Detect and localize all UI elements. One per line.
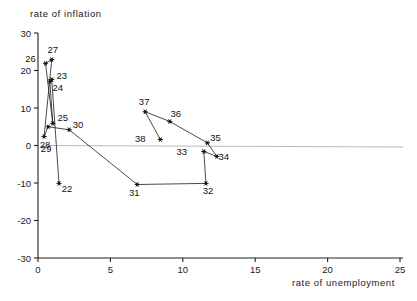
point-label-30: 30 xyxy=(73,119,84,130)
zero-line xyxy=(47,146,403,148)
data-point-markers xyxy=(41,57,219,186)
plot-area: 3020100-10-20-300510152025 2223242526272… xyxy=(0,0,417,301)
x-tick-label: 25 xyxy=(395,264,406,275)
series-polyline xyxy=(44,60,217,185)
axis-ticks: 3020100-10-20-300510152025 xyxy=(17,28,405,276)
y-tick-label: 0 xyxy=(26,140,31,151)
data-point-marker xyxy=(143,110,148,115)
y-tick-label: 10 xyxy=(20,103,31,114)
point-label-36: 36 xyxy=(170,108,181,119)
point-label-34: 34 xyxy=(219,151,230,162)
point-label-38: 38 xyxy=(135,133,146,144)
point-label-25: 25 xyxy=(57,112,68,123)
series-line xyxy=(44,60,217,185)
y-tick-label: 30 xyxy=(20,28,31,39)
x-tick-label: 0 xyxy=(35,264,40,275)
point-label-32: 32 xyxy=(203,185,214,196)
data-point-marker xyxy=(158,137,163,142)
x-tick-label: 5 xyxy=(108,264,113,275)
x-tick-label: 20 xyxy=(322,264,333,275)
point-label-22: 22 xyxy=(62,183,73,194)
y-tick-label: -20 xyxy=(17,215,31,226)
point-label-26: 26 xyxy=(25,53,36,64)
data-point-labels: 2223242526272829303132333435363738 xyxy=(25,44,229,198)
data-point-marker xyxy=(46,125,51,130)
point-label-37: 37 xyxy=(139,96,150,107)
x-tick-label: 10 xyxy=(178,264,189,275)
point-label-29: 29 xyxy=(41,143,52,154)
zero-reference-line xyxy=(47,146,403,148)
point-label-35: 35 xyxy=(210,132,221,143)
point-label-33: 33 xyxy=(177,146,188,157)
y-tick-label: -30 xyxy=(17,253,31,264)
phillips-curve-chart: rate of inflation rate of unemployment 3… xyxy=(0,0,417,301)
point-label-27: 27 xyxy=(47,44,58,55)
x-tick-label: 15 xyxy=(250,264,261,275)
point-label-23: 23 xyxy=(56,70,67,81)
y-tick-label: 20 xyxy=(20,65,31,76)
point-label-31: 31 xyxy=(129,187,140,198)
y-tick-label: -10 xyxy=(17,178,31,189)
point-label-24: 24 xyxy=(53,82,64,93)
data-point-marker xyxy=(167,119,172,124)
